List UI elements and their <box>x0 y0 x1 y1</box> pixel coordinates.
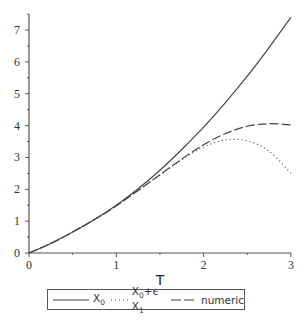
series-line-solid <box>29 17 291 253</box>
x-tick-label: 1 <box>113 258 119 272</box>
y-tick-label: 2 <box>14 182 20 196</box>
y-tick-label: 1 <box>14 214 20 228</box>
y-tick-label: 6 <box>14 55 20 69</box>
x-tick-label: 2 <box>201 258 207 272</box>
y-tick-label: 7 <box>14 23 20 37</box>
dotted-line-swatch <box>110 297 128 303</box>
legend-item-x0-eps-x1: X0+ϵ X1 <box>110 285 166 315</box>
y-tick-label: 5 <box>14 87 20 101</box>
legend-label-numeric: numeric <box>201 294 244 306</box>
x-tick-label: 0 <box>26 258 32 272</box>
y-tick-label: 3 <box>14 150 20 164</box>
series-line-dashed <box>29 124 291 253</box>
legend-item-x0: X0 <box>53 292 105 307</box>
legend-label-x0: X0 <box>93 292 105 307</box>
y-tick-label: 4 <box>14 119 20 133</box>
axes: 012301234567T <box>14 14 294 288</box>
series-lines <box>29 17 291 253</box>
series-line-dotted <box>29 139 291 253</box>
solid-line-swatch <box>53 297 89 303</box>
line-chart: 012301234567T <box>0 0 304 288</box>
y-tick-label: 0 <box>14 246 20 260</box>
legend: X0 X0+ϵ X1 numeric <box>47 289 245 310</box>
legend-item-numeric: numeric <box>171 294 244 306</box>
legend-label-x0-eps-x1: X0+ϵ X1 <box>132 285 166 315</box>
dashed-line-swatch <box>171 297 197 303</box>
x-tick-label: 3 <box>288 258 294 272</box>
